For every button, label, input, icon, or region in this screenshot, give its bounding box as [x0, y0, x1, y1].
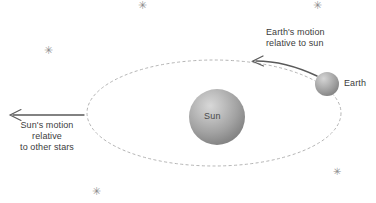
- astronomy-diagram: Earth's motion relative to sun Sun's mot…: [0, 0, 376, 203]
- sun-label: Sun: [204, 111, 221, 121]
- sun-motion-label: Sun's motion relative to other stars: [7, 120, 87, 153]
- star-icon: ✳: [92, 186, 101, 197]
- star-icon: ✳: [138, 0, 147, 11]
- star-icon: ✳: [313, 0, 322, 11]
- earth-motion-label: Earth's motion relative to sun: [266, 27, 325, 49]
- earth-sphere: [315, 72, 339, 96]
- star-icon: ✳: [44, 45, 53, 56]
- star-icon: ✳: [333, 166, 341, 177]
- earth-label: Earth: [344, 78, 366, 89]
- earth-motion-arrow: [256, 61, 317, 76]
